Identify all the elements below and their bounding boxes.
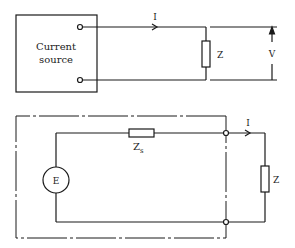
voltage-label: V [268,49,276,59]
current-source-label-2: source [39,54,73,65]
terminal-bottom [224,220,229,225]
terminal-top [78,25,83,30]
terminal-top [224,131,229,136]
source-impedance-label: Zs [133,141,144,155]
load-impedance-z [202,41,210,67]
current-label-bottom: I [246,118,250,128]
voltage-arrow-icon [270,27,275,34]
load-label-top: Z [217,50,223,60]
zs-subscript: s [140,147,144,155]
terminal-bottom [78,78,83,83]
emf-label: E [53,176,60,186]
current-source-label-1: Current [36,41,76,52]
circuit-diagrams: Current source I Z V E Zs I Z [0,0,295,248]
current-label-top: I [153,12,157,22]
load-impedance-z [261,166,269,192]
zs-main: Z [133,141,140,152]
load-label-bottom: Z [273,175,279,185]
source-impedance-zs [129,129,154,137]
